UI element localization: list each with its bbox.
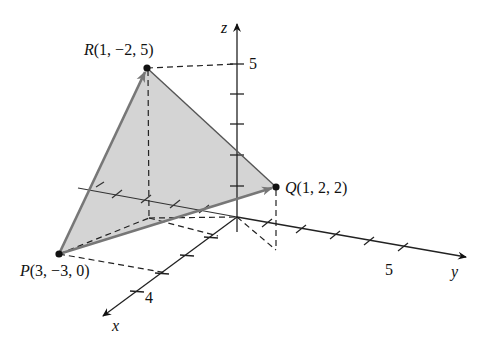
y-axis-label: y: [451, 264, 458, 280]
point-r-coords: (1, −2, 5): [94, 41, 154, 58]
point-p-coords: (3, −3, 0): [30, 262, 90, 279]
y-tick-label: 5: [385, 262, 393, 278]
x-axis-label: x: [112, 318, 119, 334]
point-q-label: Q(1, 2, 2): [285, 180, 347, 196]
z-tick-label: 5: [249, 56, 257, 72]
z-axis-label: z: [221, 20, 227, 36]
point-p: [55, 250, 62, 257]
point-p-name: P: [20, 262, 30, 279]
x-tick-label: 4: [145, 290, 153, 306]
point-r-label: R(1, −2, 5): [84, 42, 153, 58]
triangle-diagram: [0, 0, 496, 342]
point-q-name: Q: [285, 179, 297, 196]
y-axis: [237, 217, 466, 257]
point-r: [143, 64, 150, 71]
point-q: [272, 183, 279, 190]
triangle-pqr: [59, 68, 276, 254]
point-q-coords: (1, 2, 2): [297, 179, 348, 196]
point-p-label: P(3, −3, 0): [20, 263, 89, 279]
point-r-name: R: [84, 41, 94, 58]
